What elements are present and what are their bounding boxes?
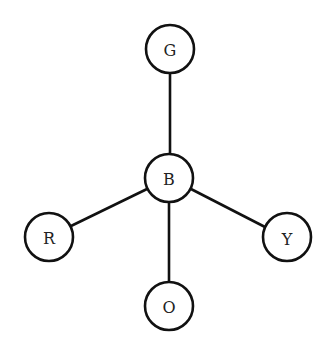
node-y-label: Y [281,230,293,249]
node-g: G [146,25,194,73]
node-b-label: B [163,170,175,189]
node-o-label: O [162,298,175,317]
node-b: B [145,154,193,202]
node-r: R [25,213,73,261]
node-g-label: G [164,41,177,60]
node-r-label: R [43,229,56,248]
node-o: O [145,282,193,330]
edge-b-y [191,189,265,227]
star-graph-diagram: G B R Y O [0,0,329,346]
edge-b-r [71,189,147,226]
node-y: Y [263,213,311,261]
nodes: G B R Y O [25,25,311,330]
